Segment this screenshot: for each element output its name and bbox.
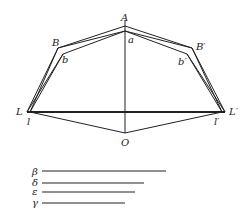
label-l: l [27,116,30,127]
legend-symbol-gamma: γ [32,197,38,208]
legend-symbol-epsilon: ε [32,186,37,197]
legend-symbol-beta: β [31,166,38,177]
line-Lprime-bprime [187,54,225,112]
label-L: L [15,106,23,117]
label-b: b [62,54,68,65]
geometry-diagram: A a B b B′ b′ L l L′ l′ O β δ ε γ [0,0,247,224]
line-B-a [58,31,125,48]
label-B: B [51,37,59,48]
label-A: A [120,12,128,23]
label-O: O [121,137,129,148]
line-Bprime-a [125,31,192,48]
label-l-prime: l′ [214,116,220,127]
line-l-B [30,48,58,112]
line-lprime-Bprime [192,48,222,112]
label-L-prime: L′ [228,106,239,117]
label-B-prime: B′ [195,41,206,52]
label-a: a [128,34,134,45]
legend: β δ ε γ [31,166,166,208]
lower-triangle [30,112,222,133]
label-b-prime: b′ [178,56,187,67]
line-L-b [27,54,63,112]
